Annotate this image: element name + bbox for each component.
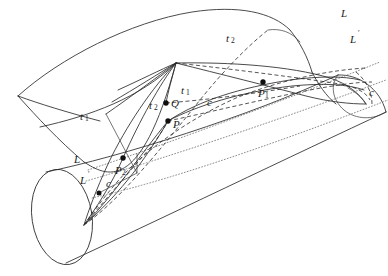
- label-t2-upper-base: t: [226, 32, 230, 44]
- ruled-surface-group: [18, 9, 372, 172]
- geometric-diagram-svg: L L ′ t 2 t 1 t 1 t 2 Q P: [0, 0, 388, 276]
- cylinder-generatrix-L-prime-dotted: [88, 62, 380, 170]
- point-marker-P2: [120, 155, 125, 160]
- label-t2-center: t 2: [149, 99, 158, 112]
- tangent-curves-group: [84, 30, 372, 226]
- label-c-right: c: [369, 86, 374, 98]
- label-L-prime-top-right-text: L: [349, 33, 356, 45]
- label-Q-point: Q: [171, 97, 179, 109]
- label-P2-base: P: [114, 164, 122, 176]
- label-t2-upper: t 2: [226, 32, 235, 45]
- label-P1-base: P: [257, 87, 265, 99]
- label-t1-center-base: t: [181, 84, 185, 96]
- label-L-lower-left: L: [73, 153, 80, 165]
- surface-upper-boundary-right: [290, 30, 312, 72]
- point-marker-P1: [260, 79, 265, 84]
- label-c-center: c: [207, 96, 212, 108]
- point-marker-Q: [163, 100, 168, 105]
- label-P1-point: P 1: [257, 87, 269, 100]
- curve-c-right-dashed: [176, 63, 370, 100]
- label-t2-center-base: t: [149, 99, 153, 111]
- label-P1-sub: 1: [265, 91, 269, 100]
- label-L-prime-top-right: L ′: [349, 29, 360, 45]
- label-L-prime-lower-prime: ′: [88, 170, 90, 179]
- label-L-prime-lower-text: L: [79, 174, 86, 186]
- point-marker-P: [165, 118, 170, 123]
- label-t1-left-sub: 1: [85, 114, 89, 123]
- label-t1-left: t 1: [80, 110, 89, 123]
- figure-canvas: L L ′ t 2 t 1 t 1 t 2 Q P: [0, 0, 388, 276]
- point-marker-lower: [97, 191, 102, 196]
- cylinder-right-cap-arc: [338, 75, 386, 112]
- label-t1-center: t 1: [181, 84, 190, 97]
- label-P2-sub: 2: [122, 168, 126, 177]
- label-P-point: P: [172, 118, 180, 130]
- curve-t2-top-arc: [268, 30, 300, 43]
- curve-c-solid-through-P: [84, 84, 364, 225]
- label-t2-center-sub: 2: [154, 103, 158, 112]
- label-P2-point: P 2: [114, 164, 126, 177]
- surface-upper-boundary: [18, 9, 290, 96]
- label-t2-upper-sub: 2: [231, 36, 235, 45]
- label-c-lower-left: c: [106, 177, 111, 189]
- label-L-prime-top-right-prime: ′: [358, 29, 360, 38]
- label-L-top-right: L: [340, 7, 347, 19]
- label-t1-center-sub: 1: [186, 88, 190, 97]
- label-L-prime-lower: L ′: [79, 170, 90, 186]
- cylinder-left-cap-ellipse: [25, 165, 99, 269]
- cylinder-top-silhouette: [46, 75, 338, 172]
- cylinder-group: [25, 62, 388, 269]
- cylinder-bottom-silhouette: [66, 112, 386, 263]
